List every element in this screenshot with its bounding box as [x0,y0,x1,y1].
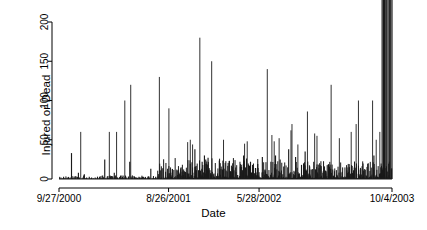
impulse-plot: 050100150200 9/27/20008/26/20015/28/2002… [0,0,427,230]
x-tick-label: 9/27/2000 [37,193,82,204]
x-tick-label: 5/28/2002 [237,193,282,204]
x-tick-label: 10/4/2003 [370,193,415,204]
x-axis-title: Date [0,207,427,219]
chart-container: 050100150200 9/27/20008/26/20015/28/2002… [0,0,427,230]
x-tick-label: 8/26/2001 [146,193,191,204]
y-tick-label: 200 [39,13,50,30]
y-tick-label: 150 [39,52,50,69]
y-axis-title: Injured or Dead [40,75,52,156]
y-tick-label: 0 [39,176,50,182]
